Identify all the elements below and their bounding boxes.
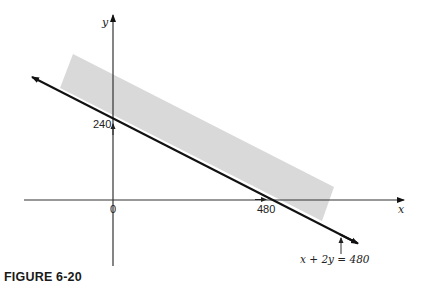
figure-caption: FIGURE 6-20 xyxy=(4,270,82,284)
x-axis-label: x xyxy=(398,203,405,216)
constraint-line-end-arrow xyxy=(340,234,358,243)
figure-canvas: y x 0 240 480 x + 2y = 480 xyxy=(0,0,426,296)
constraint-line xyxy=(32,77,357,243)
y-intercept-label: 240 xyxy=(93,118,111,130)
x-intercept-label: 480 xyxy=(257,203,275,215)
equation-label: x + 2y = 480 xyxy=(300,253,370,265)
y-axis-label: y xyxy=(101,16,109,29)
shaded-region xyxy=(60,54,334,221)
origin-label: 0 xyxy=(110,203,116,215)
